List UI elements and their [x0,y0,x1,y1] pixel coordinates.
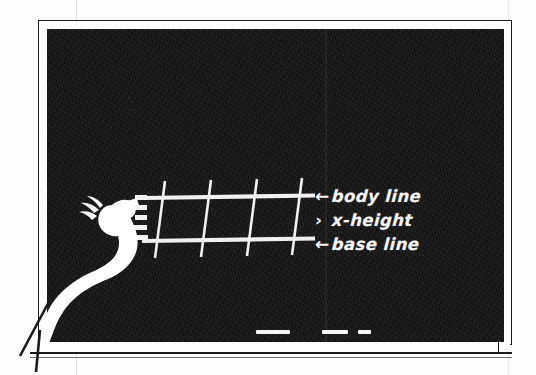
label-x-height: › x-height [315,208,500,232]
left-tick-4 [133,225,147,230]
chalk-stick-long [256,330,290,334]
label-body-line-text: body line [331,186,422,205]
left-tick-3 [135,215,147,220]
label-x-height-text: x-height [331,210,413,229]
chalk-tray-edge [30,352,512,354]
illustration-page: ← body line › x-height ← base line [0,0,536,375]
arrow-left-icon: ← [314,236,333,253]
guideline-left-ticks [133,195,148,240]
left-tick-2 [133,205,147,210]
guideline-stem-2 [201,180,211,257]
guideline-stem-1 [155,181,165,258]
angle-bracket-icon: › [314,212,333,229]
label-body-line: ← body line [315,184,500,208]
label-base-line-text: base line [331,234,420,253]
left-tick-1 [135,195,147,200]
blackboard-surface: ← body line › x-height ← base line [47,29,504,342]
chalk-tray-band [40,343,510,352]
guideline-labels: ← body line › x-height ← base line [315,184,500,256]
guideline-stem-4 [292,178,302,255]
guideline-body-line [143,196,315,199]
arrow-left-icon: ← [314,188,333,205]
chalk-stick-medium [322,330,348,334]
chalk-stick-short [358,330,371,334]
guideline-base-line [142,239,315,242]
chalk-tray-shadow [30,357,512,358]
chalk-tray-end-cap [498,332,512,354]
label-base-line: ← base line [315,232,500,256]
left-tick-5 [135,235,148,240]
guideline-stem-3 [247,179,257,256]
